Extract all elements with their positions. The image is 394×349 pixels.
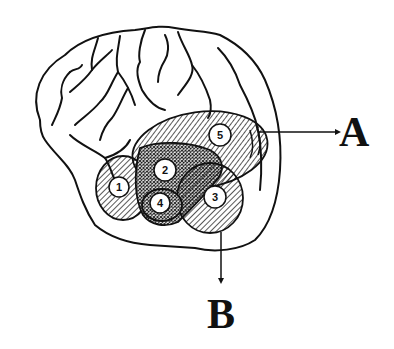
region-4-marker: 4 xyxy=(150,193,170,213)
label-b: B xyxy=(207,291,235,337)
brain-diagram: 1 2 3 4 5 A B xyxy=(0,0,394,349)
region-5-label: 5 xyxy=(217,129,223,141)
region-1-marker: 1 xyxy=(109,177,129,197)
label-a: A xyxy=(339,109,370,155)
region-4-label: 4 xyxy=(157,197,164,209)
region-2-marker: 2 xyxy=(154,159,176,181)
callout-b-arrowhead-icon xyxy=(218,278,224,284)
region-2-label: 2 xyxy=(162,164,168,176)
callout-b: B xyxy=(207,232,235,337)
region-1-label: 1 xyxy=(116,181,122,193)
region-5-marker: 5 xyxy=(209,124,231,146)
region-3-label: 3 xyxy=(212,191,218,203)
callout-a: A xyxy=(258,109,370,155)
region-3-marker: 3 xyxy=(204,186,226,208)
